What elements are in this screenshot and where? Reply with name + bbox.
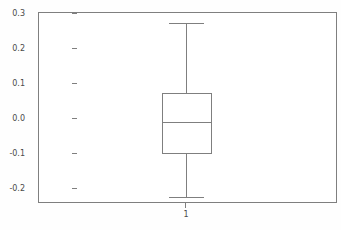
y-tick-label: 0.2: [12, 42, 25, 56]
y-tick-label: -0.2: [9, 182, 25, 196]
figure: 0.3 0.2 0.1 0.0 -0.1 -0.2: [0, 0, 341, 230]
x-tick-mark: [185, 203, 186, 208]
whisker-lower: [186, 154, 187, 198]
y-tick-label: 0.3: [12, 7, 25, 21]
whisker-cap-upper: [169, 23, 204, 24]
y-tick-mark: [72, 153, 77, 154]
y-tick-label: 0.0: [12, 112, 25, 126]
y-tick-label: -0.1: [9, 147, 25, 161]
y-tick-mark: [72, 83, 77, 84]
whisker-upper: [186, 23, 187, 94]
median-line: [162, 122, 212, 123]
plot-area: 0.3 0.2 0.1 0.0 -0.1 -0.2: [38, 12, 337, 203]
x-tick-label: 1: [166, 209, 206, 221]
y-tick-mark: [72, 188, 77, 189]
y-tick-mark: [72, 13, 77, 14]
y-tick-mark: [72, 118, 77, 119]
whisker-cap-lower: [169, 197, 204, 198]
y-tick-mark: [72, 48, 77, 49]
box-iqr: [162, 93, 212, 154]
y-tick-label: 0.1: [12, 77, 25, 91]
